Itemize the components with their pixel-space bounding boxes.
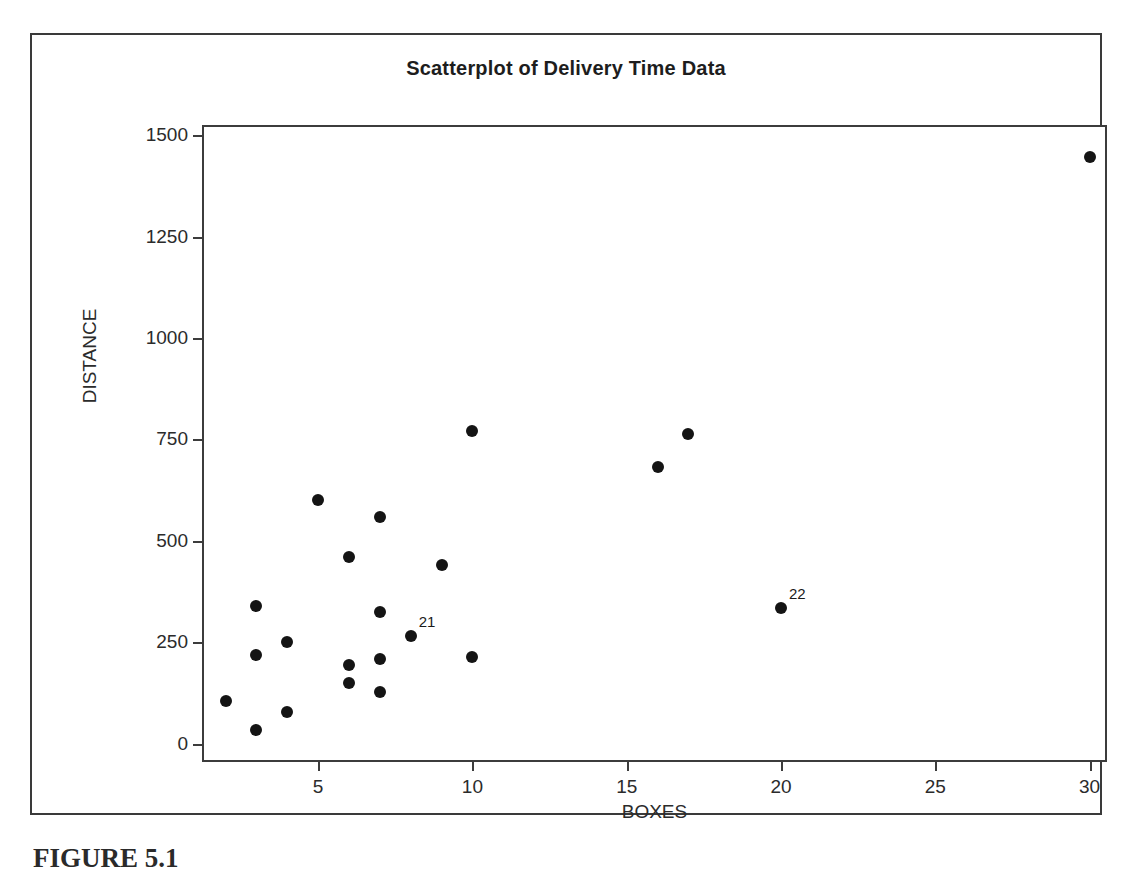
x-axis-tick [318,760,320,771]
y-axis-tick-label: 750 [156,428,188,450]
scatter-point[interactable] [281,706,293,718]
scatter-point[interactable] [682,428,694,440]
y-axis-tick-label: 1250 [146,226,188,248]
x-axis-tick-label: 15 [616,776,637,798]
scatter-point[interactable] [374,686,386,698]
scatter-point[interactable] [1084,151,1096,163]
y-axis-tick [193,541,204,543]
y-axis-tick [193,439,204,441]
y-axis-tick-label: 500 [156,530,188,552]
scatter-point[interactable] [250,649,262,661]
figure-frame: Scatterplot of Delivery Time Data 025050… [30,33,1102,815]
y-axis-tick-label: 250 [156,631,188,653]
x-axis-tick [1090,760,1092,771]
scatter-point[interactable] [466,425,478,437]
figure-caption: FIGURE 5.1 [33,843,179,874]
scatter-plot-area: 0250500750100012501500510152025302122 [202,125,1107,762]
y-axis-tick [193,744,204,746]
scatter-point[interactable] [250,724,262,736]
y-axis-tick [193,237,204,239]
scatter-point[interactable] [374,606,386,618]
scatter-point[interactable] [374,511,386,523]
scatter-point[interactable] [312,494,324,506]
x-axis-tick-label: 20 [770,776,791,798]
scatter-point[interactable] [343,551,355,563]
x-axis-title: BOXES [202,801,1107,823]
scatter-point[interactable] [220,695,232,707]
y-axis-title: DISTANCE [79,256,101,456]
scatter-point[interactable] [343,659,355,671]
x-axis-tick [781,760,783,771]
scatter-point[interactable] [436,559,448,571]
scatter-point-label: 21 [419,613,436,630]
x-axis-tick-label: 5 [313,776,324,798]
x-axis-tick-label: 30 [1079,776,1100,798]
x-axis-tick [472,760,474,771]
scatter-point[interactable] [250,600,262,612]
x-axis-tick [935,760,937,771]
scatter-point[interactable] [374,653,386,665]
scatter-point-label: 22 [789,585,806,602]
y-axis-tick [193,338,204,340]
y-axis-tick-label: 0 [177,733,188,755]
scatter-point[interactable] [466,651,478,663]
y-axis-tick-label: 1000 [146,327,188,349]
scatter-point[interactable] [405,630,417,642]
y-axis-tick-label: 1500 [146,124,188,146]
scatter-point[interactable] [652,461,664,473]
x-axis-tick [627,760,629,771]
y-axis-tick [193,135,204,137]
chart-title: Scatterplot of Delivery Time Data [32,57,1100,80]
scatter-point[interactable] [775,602,787,614]
scatter-point[interactable] [343,677,355,689]
x-axis-tick-label: 25 [925,776,946,798]
y-axis-tick [193,642,204,644]
scatter-point[interactable] [281,636,293,648]
x-axis-tick-label: 10 [462,776,483,798]
